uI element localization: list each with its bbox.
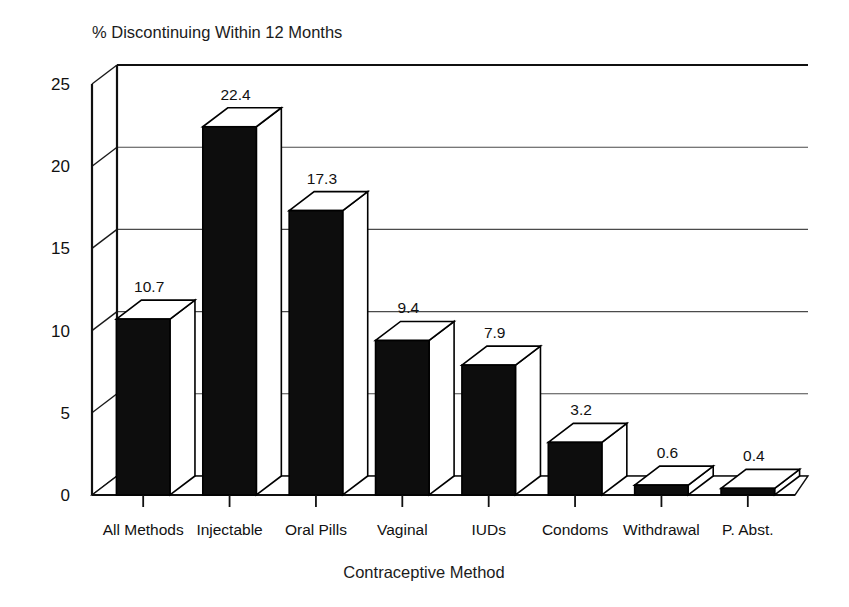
bar-2 xyxy=(289,192,368,495)
bar-front-face xyxy=(203,127,257,495)
bar-side-face xyxy=(170,300,195,495)
bar-value-label: 0.4 xyxy=(743,447,765,464)
y-axis-tick-label: 20 xyxy=(51,157,70,176)
bar-front-face xyxy=(116,319,170,495)
axis-depth-connector xyxy=(92,147,117,166)
y-axis-ticks: 0510152025 xyxy=(51,75,70,505)
axis-depth-connector xyxy=(92,394,117,413)
bar-value-label: 10.7 xyxy=(134,278,164,295)
bar-side-face xyxy=(429,321,454,495)
x-axis-category-label: Oral Pills xyxy=(285,521,347,538)
bar-3 xyxy=(376,321,455,495)
x-axis-ticks: All MethodsInjectableOral PillsVaginalIU… xyxy=(103,495,774,538)
axis-depth-connector xyxy=(92,65,117,84)
bar-front-face xyxy=(721,488,775,495)
bar-5 xyxy=(548,423,627,495)
y-axis-tick-label: 5 xyxy=(61,404,70,423)
y-axis-tick-label: 25 xyxy=(51,75,70,94)
bar-value-label: 3.2 xyxy=(570,401,592,418)
bar-value-label: 17.3 xyxy=(307,170,337,187)
bar-1 xyxy=(203,108,282,495)
y-axis-tick-label: 0 xyxy=(61,486,70,505)
x-axis-category-label: Withdrawal xyxy=(623,521,700,538)
bar-side-face xyxy=(515,346,540,495)
chart-title: % Discontinuing Within 12 Months xyxy=(92,23,342,41)
axis-depth-connector xyxy=(92,312,117,331)
x-axis-category-label: Vaginal xyxy=(377,521,428,538)
bar-value-label: 9.4 xyxy=(398,299,420,316)
y-axis-tick-label: 10 xyxy=(51,322,70,341)
bar-chart: % Discontinuing Within 12 Months 0510152… xyxy=(0,0,849,607)
chart-container: % Discontinuing Within 12 Months 0510152… xyxy=(0,0,849,607)
bar-0 xyxy=(116,300,195,495)
bar-side-face xyxy=(256,108,281,495)
x-axis-category-label: Injectable xyxy=(196,521,262,538)
x-axis-category-label: Condoms xyxy=(542,521,609,538)
y-axis-tick-label: 15 xyxy=(51,239,70,258)
bar-value-label: 7.9 xyxy=(484,324,506,341)
x-axis-category-label: All Methods xyxy=(103,521,184,538)
axis-depth-connector xyxy=(92,229,117,248)
bar-front-face xyxy=(548,442,602,495)
bar-front-face xyxy=(376,340,430,495)
x-axis-category-label: IUDs xyxy=(471,521,506,538)
bars-group xyxy=(116,108,799,495)
bar-4 xyxy=(462,346,541,495)
bar-front-face xyxy=(635,485,689,495)
bar-value-label: 0.6 xyxy=(657,444,679,461)
x-axis-title: Contraceptive Method xyxy=(343,563,504,581)
bar-side-face xyxy=(343,192,368,495)
bar-value-label: 22.4 xyxy=(220,86,251,103)
x-axis-category-label: P. Abst. xyxy=(722,521,773,538)
bar-front-face xyxy=(289,211,343,495)
bar-front-face xyxy=(462,365,516,495)
